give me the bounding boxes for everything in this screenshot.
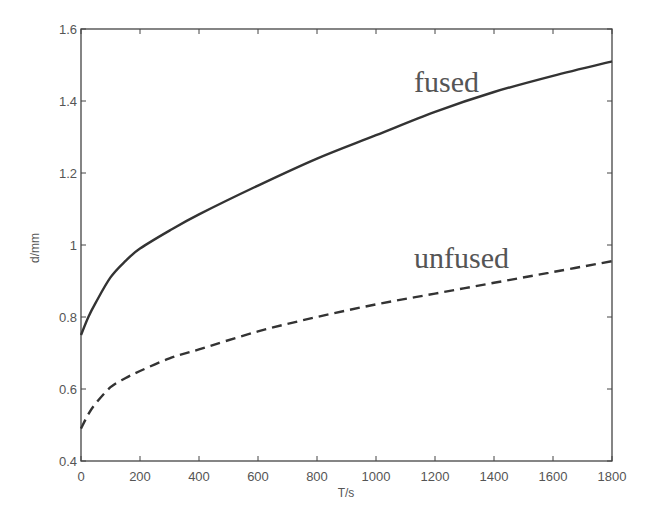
labels-layer: T/s d/mm fused unfused: [28, 65, 509, 500]
x-tick-label: 1200: [421, 469, 450, 484]
x-tick-label: 0: [77, 469, 84, 484]
y-tick-label: 1.6: [59, 22, 77, 37]
x-tick-label: 200: [129, 469, 151, 484]
x-tick-label: 400: [188, 469, 210, 484]
unfused-series-label: unfused: [414, 241, 509, 274]
y-tick-label: 1.4: [59, 94, 77, 109]
chart: 0200400600800100012001400160018000.40.60…: [0, 0, 655, 530]
x-tick-label: 1000: [362, 469, 391, 484]
x-tick-label: 1800: [598, 469, 627, 484]
x-tick-label: 600: [247, 469, 269, 484]
fused-series-label: fused: [414, 65, 479, 98]
y-tick-label: 0.8: [59, 310, 77, 325]
axis-ticks: 0200400600800100012001400160018000.40.60…: [59, 22, 627, 484]
y-tick-label: 0.4: [59, 454, 77, 469]
series-layer: [81, 61, 612, 428]
x-tick-label: 800: [306, 469, 328, 484]
y-tick-label: 1: [70, 238, 77, 253]
y-tick-label: 1.2: [59, 166, 77, 181]
x-axis-label: T/s: [338, 486, 355, 500]
y-tick-label: 0.6: [59, 382, 77, 397]
unfused-series-line: [81, 261, 612, 428]
y-axis-label: d/mm: [28, 233, 42, 263]
axes-box: [81, 29, 612, 461]
x-tick-label: 1600: [539, 469, 568, 484]
x-tick-label: 1400: [480, 469, 509, 484]
plot-area: [81, 29, 612, 461]
fused-series-line: [81, 61, 612, 335]
